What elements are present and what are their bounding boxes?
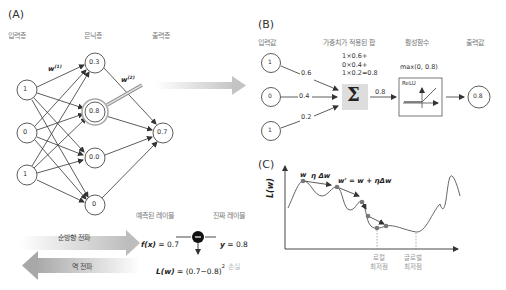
loss-expression: L(w) = (0.7−0.8)2 <box>156 259 225 278</box>
diagram-canvas <box>0 0 506 290</box>
predicted-value: f(x) = 0.7 <box>141 232 179 251</box>
sum-line-3: 1×0.2=0.8 <box>342 69 378 78</box>
weight-2: 0.4 <box>299 92 309 100</box>
weight-label-1-sup: (1) <box>54 64 61 69</box>
input-node-1: 1 <box>23 85 27 93</box>
weight-update-formula: w' = w + ηΔw <box>338 177 391 185</box>
neuron-input-2: 0 <box>268 92 272 99</box>
local-min-line-1: 로컬 <box>370 254 388 263</box>
activation-header: 활성함수 <box>405 37 429 47</box>
relu-label: ReLU <box>402 80 416 86</box>
weight-3: 0.2 <box>301 113 311 121</box>
local-minimum-label: 로컬 최저점 <box>370 254 388 272</box>
loss-expr: L(w) <box>156 267 175 276</box>
loss-value: = (0.7−0.8) <box>175 267 222 276</box>
fx-value: = 0.7 <box>156 240 179 249</box>
input-values-header: 입력값 <box>258 37 276 47</box>
big-transition-arrow <box>155 76 246 95</box>
forward-propagation-label: 순방향 전파 <box>58 232 90 242</box>
weight-label-2-sup: (2) <box>127 75 134 80</box>
panel-b-label: (B) <box>258 18 274 31</box>
sum-line-1: 1×0.6+ <box>342 52 378 61</box>
neuron-output-value: 0.8 <box>473 92 483 99</box>
loss-computation <box>176 231 216 254</box>
true-value: y = 0.8 <box>220 232 248 251</box>
input-layer-header: 입력층 <box>8 30 26 40</box>
sigma-icon: Σ <box>347 84 360 105</box>
loss-caption: 손실 <box>228 261 240 271</box>
input-node-2: 0 <box>23 128 27 136</box>
sum-line-2: 0×0.4+ <box>342 61 378 70</box>
y-value: = 0.8 <box>225 240 248 249</box>
panel-c-label: (C) <box>258 158 274 171</box>
output-node: 0.7 <box>157 128 167 136</box>
input-node-3: 1 <box>23 170 27 178</box>
weighted-sum-calculation: 1×0.6+ 0×0.4+ 1×0.2=0.8 <box>342 52 378 78</box>
panel-a-label: (A) <box>8 8 24 21</box>
global-minimum-label: 글로벌 최저점 <box>404 254 422 272</box>
weight-point-label: w <box>300 171 306 179</box>
loss-exponent: 2 <box>222 263 225 269</box>
hidden-node-1: 0.3 <box>89 58 99 66</box>
neuron-input-3: 1 <box>268 126 272 133</box>
hidden-node-2: 0.8 <box>89 107 99 115</box>
hidden-node-3: 0.0 <box>89 153 99 161</box>
step-size-label: η Δw <box>311 172 330 180</box>
weighted-sum-header: 가중치가 적용된 합 <box>323 37 375 47</box>
output-layer-header: 출력층 <box>152 30 170 40</box>
hidden-node-4: 0 <box>92 200 96 208</box>
output-value-header: 출력값 <box>466 37 484 47</box>
weighted-sum-output: 0.8 <box>375 88 385 96</box>
predicted-label-caption: 예측된 레이블 <box>136 210 174 220</box>
minimum-markers <box>377 230 416 249</box>
hidden-layer-header: 은닉층 <box>84 30 102 40</box>
global-min-line-2: 최저점 <box>404 263 422 272</box>
weight-1: 0.6 <box>301 69 311 77</box>
backward-propagation-label: 역 전파 <box>72 261 92 271</box>
fx-expr: f(x) <box>141 240 156 249</box>
true-label-caption: 진짜 레이블 <box>213 210 245 220</box>
neuron-input-1: 1 <box>268 58 272 65</box>
highlight-pointer <box>107 85 142 105</box>
weight-label-2: w(2) <box>121 75 135 84</box>
global-min-line-1: 글로벌 <box>404 254 422 263</box>
activation-expression: max(0, 0.8) <box>400 63 438 71</box>
weight-label-1: w(1) <box>48 64 62 73</box>
local-min-line-2: 최저점 <box>370 263 388 272</box>
loss-axis-label: L(w) <box>266 178 275 198</box>
